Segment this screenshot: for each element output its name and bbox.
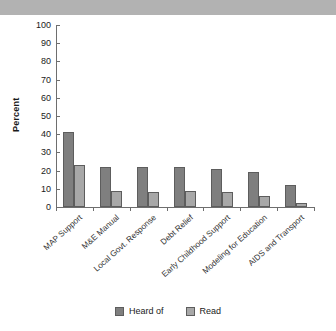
x-axis-tick-mark: [93, 207, 94, 211]
y-axis-tick-label: 0: [46, 203, 56, 212]
x-axis-tick-mark: [277, 207, 278, 211]
y-axis-tick-mark: [56, 43, 60, 44]
y-axis-tick-label: 30: [41, 148, 56, 157]
plot-area: 1009080706050403020100: [56, 25, 314, 207]
bar: [100, 167, 111, 207]
y-axis-tick-label: 10: [41, 184, 56, 193]
x-axis-line: [56, 207, 314, 208]
bar: [248, 172, 259, 207]
bar-group: [211, 25, 233, 207]
bar: [63, 132, 74, 207]
x-axis-tick-mark: [240, 207, 241, 211]
y-axis-tick-mark: [56, 98, 60, 99]
y-axis-tick: 80: [41, 57, 56, 66]
y-axis-tick: 10: [41, 184, 56, 193]
y-axis-tick: 60: [41, 93, 56, 102]
y-axis-title: Percent: [6, 75, 26, 155]
bar: [211, 169, 222, 207]
y-axis-tick-label: 50: [41, 112, 56, 121]
legend-label: Read: [200, 307, 222, 316]
x-axis-label: Debt Relief: [159, 213, 195, 247]
y-axis-tick-mark: [56, 152, 60, 153]
x-axis-label: Local Govt. Response: [92, 213, 158, 274]
bar-group: [174, 25, 196, 207]
x-axis-tick-mark: [203, 207, 204, 211]
x-axis-tick-mark: [314, 207, 315, 211]
x-axis-label: Early Childhood Support: [160, 213, 232, 279]
bar: [259, 196, 270, 207]
bar: [296, 203, 307, 207]
chart-legend: Heard ofRead: [0, 307, 336, 316]
y-axis-tick: 90: [41, 39, 56, 48]
y-axis-tick-mark: [56, 25, 60, 26]
y-axis-tick-label: 70: [41, 75, 56, 84]
y-axis-tick-label: 80: [41, 57, 56, 66]
y-axis-tick: 0: [46, 203, 56, 212]
y-axis-tick-label: 20: [41, 166, 56, 175]
bar: [222, 192, 233, 207]
bar: [137, 167, 148, 207]
y-axis-tick-mark: [56, 189, 60, 190]
bar-group: [63, 25, 85, 207]
y-axis-tick: 30: [41, 148, 56, 157]
bar: [285, 185, 296, 207]
bar: [74, 165, 85, 207]
y-axis-tick-mark: [56, 171, 60, 172]
bar-chart: Percent 1009080706050403020100 MAP Suppo…: [0, 15, 336, 331]
y-axis-tick: 100: [36, 21, 56, 30]
y-axis-tick-mark: [56, 61, 60, 62]
y-axis-tick: 50: [41, 112, 56, 121]
bar: [174, 167, 185, 207]
y-axis-tick-mark: [56, 116, 60, 117]
legend-item[interactable]: Heard of: [115, 307, 164, 316]
bar-group: [285, 25, 307, 207]
x-axis-tick-mark: [56, 207, 57, 211]
bar-group: [100, 25, 122, 207]
bar-group: [137, 25, 159, 207]
top-gray-banner: [0, 0, 336, 15]
legend-swatch-icon: [186, 307, 195, 316]
bar-group: [248, 25, 270, 207]
bar: [185, 191, 196, 207]
legend-swatch-icon: [115, 307, 124, 316]
legend-label: Heard of: [129, 307, 164, 316]
y-axis-tick: 40: [41, 130, 56, 139]
bar: [148, 192, 159, 207]
x-axis-tick-mark: [130, 207, 131, 211]
y-axis-tick: 20: [41, 166, 56, 175]
y-axis-tick-label: 90: [41, 39, 56, 48]
x-axis-label: Modeling for Education: [200, 213, 268, 276]
legend-item[interactable]: Read: [186, 307, 222, 316]
y-axis-tick-label: 100: [36, 21, 56, 30]
y-axis-tick: 70: [41, 75, 56, 84]
y-axis-tick-mark: [56, 134, 60, 135]
x-axis-label: MAP Support: [42, 213, 84, 252]
y-axis-tick-label: 60: [41, 93, 56, 102]
y-axis-tick-mark: [56, 80, 60, 81]
x-axis-tick-mark: [167, 207, 168, 211]
bar: [111, 191, 122, 207]
y-axis-tick-label: 40: [41, 130, 56, 139]
